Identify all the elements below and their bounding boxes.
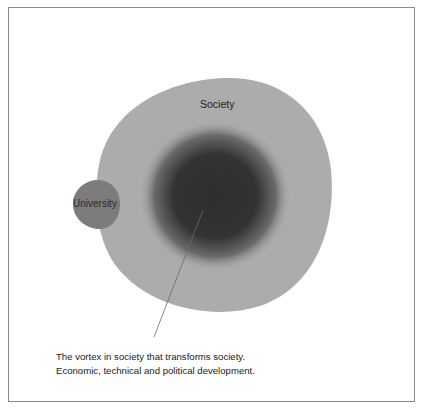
caption-line-1: The vortex in society that transforms so… (56, 350, 255, 364)
university-label: University (73, 198, 117, 209)
vortex-shape (139, 120, 291, 272)
vortex-caption: The vortex in society that transforms so… (56, 350, 255, 378)
caption-line-2: Economic, technical and political develo… (56, 364, 255, 378)
society-label: Society (200, 98, 234, 110)
